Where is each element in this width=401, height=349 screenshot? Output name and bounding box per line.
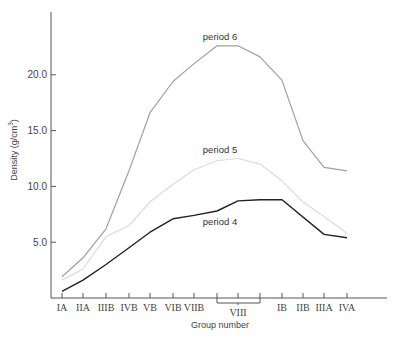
x-tick-label: VIIB [184,302,205,313]
x-axis-title: Group number [191,320,249,330]
period-4-line [62,200,347,291]
bracket-line [217,298,260,303]
density-chart: 5.010.015.020.0 IAIIAIIIBIVBVBVIBVIIBIBI… [0,0,401,349]
x-tick-label: IIB [296,302,310,313]
x-ticks: IAIIAIIIBIVBVBVIBVIIBIBIIBIIIAIVA [57,293,356,313]
series-labels: period 6period 5period 4 [203,31,237,227]
period-6-line [62,46,347,277]
y-axis-title: Density (g/cm3) [7,119,19,181]
x-tick-label: IB [277,302,287,313]
x-tick-label: IVB [120,302,138,313]
x-tick-label: VIB [164,302,182,313]
y-tick-label: 15.0 [28,125,48,136]
period-4-label: period 4 [203,216,237,227]
viii-label: VIII [229,307,246,318]
y-tick-label: 20.0 [28,69,48,80]
axes [51,12,387,298]
period-6-label: period 6 [203,31,237,42]
viii-bracket: VIII [217,298,260,318]
y-tick-label: 10.0 [28,181,48,192]
x-tick-label: IIIB [98,302,115,313]
x-tick-label: IIIA [315,302,333,313]
x-tick-label: VB [143,302,157,313]
series-lines [62,46,347,291]
x-tick-label: IIA [76,302,91,313]
y-ticks: 5.010.015.020.0 [28,69,56,247]
x-tick-label: IVA [339,302,356,313]
period-5-label: period 5 [203,144,237,155]
y-tick-label: 5.0 [33,237,47,248]
x-tick-label: IA [57,302,68,313]
